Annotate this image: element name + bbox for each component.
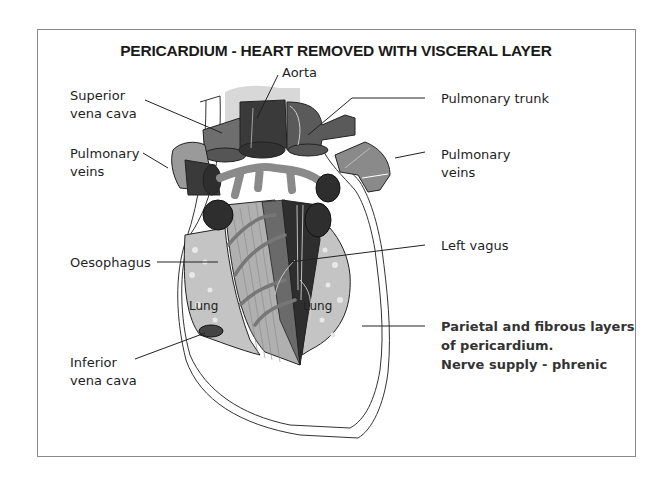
right-lower-vein-opening xyxy=(305,203,331,237)
inferior-vena-cava-shape xyxy=(199,325,223,337)
label-pulmonary-veins-right: Pulmonary veins xyxy=(441,146,510,182)
pulmonary-branches xyxy=(220,167,325,195)
label-pulmonary-veins-left: Pulmonary veins xyxy=(70,145,139,181)
label-lung-left: Lung xyxy=(189,299,218,313)
left-upper-vein-opening xyxy=(203,200,233,230)
right-pulmonary-veins-shape xyxy=(335,142,390,192)
label-lung-right: Lung xyxy=(303,299,332,313)
aorta-shape xyxy=(239,100,287,158)
label-aorta: Aorta xyxy=(282,64,317,82)
pulmonary-trunk-shape xyxy=(287,102,355,156)
label-oesophagus: Oesophagus xyxy=(70,254,151,272)
label-pulmonary-trunk: Pulmonary trunk xyxy=(441,90,549,108)
pericardium-illustration xyxy=(0,0,672,482)
label-inferior-vena-cava: Inferior vena cava xyxy=(70,354,137,390)
right-upper-vein-opening xyxy=(316,174,340,202)
label-superior-vena-cava: Superior vena cava xyxy=(70,87,137,123)
label-left-vagus: Left vagus xyxy=(441,237,509,255)
label-pericardium-layers: Parietal and fibrous layers of pericardi… xyxy=(441,317,635,374)
